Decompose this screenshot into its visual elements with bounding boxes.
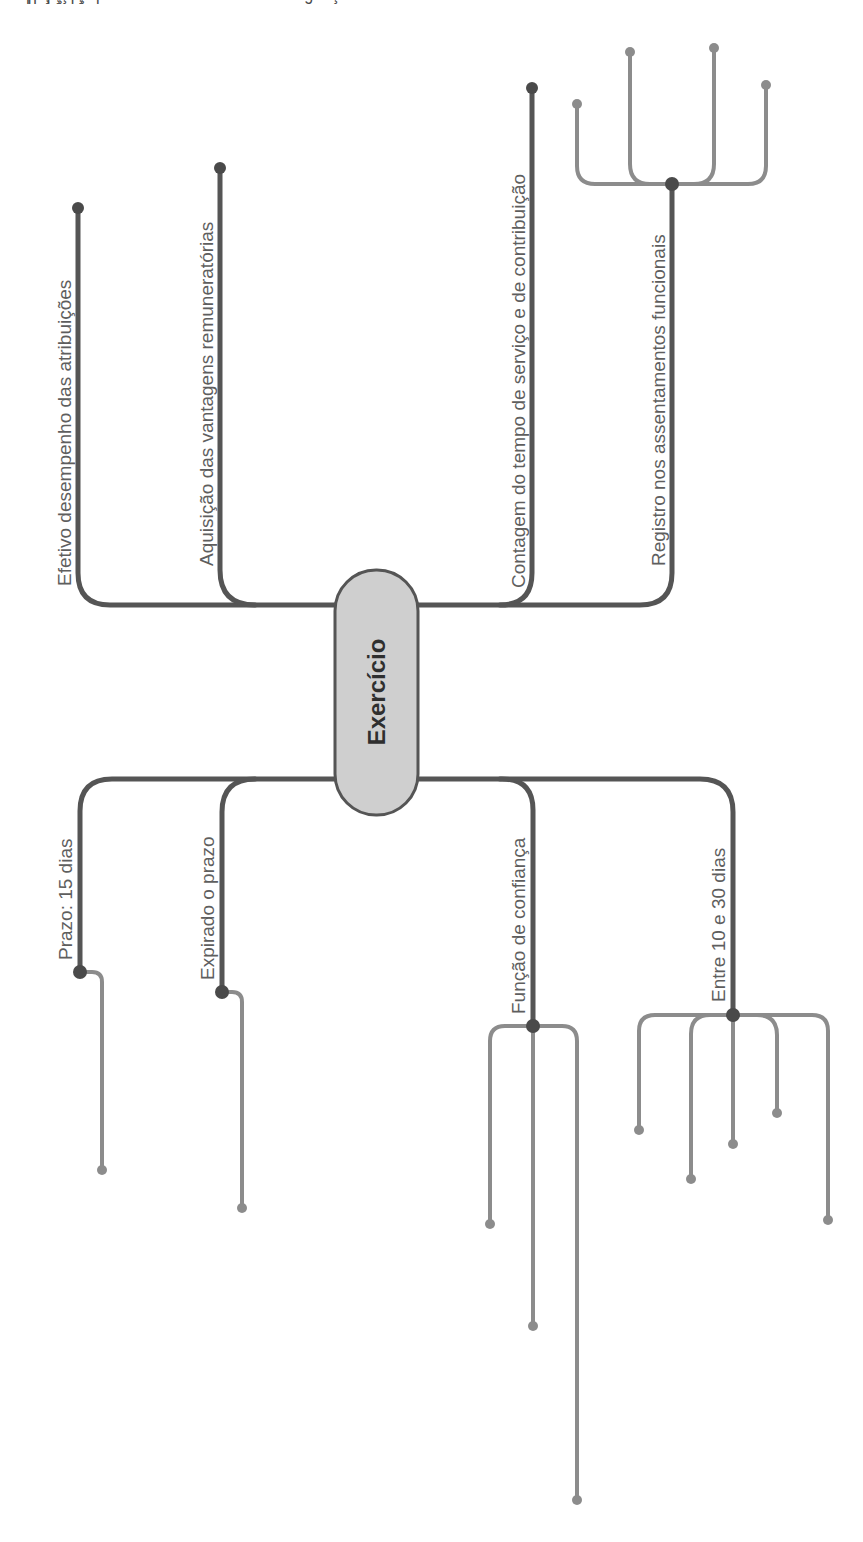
leaf-label-exercicio-provisorio: Exercício provisório	[0, 0, 141, 4]
endpoint-dot	[528, 1321, 538, 1331]
endpoint-dot	[485, 1219, 495, 1229]
endpoint-dot	[572, 1495, 582, 1505]
junction-dot	[665, 177, 679, 191]
branch-label-prazo: Prazo: 15 dias	[55, 839, 76, 960]
branch-line-aquisicao	[220, 168, 255, 605]
branch-label-expirado: Expirado o prazo	[197, 836, 218, 980]
junction-dot	[526, 1019, 540, 1033]
branch-label-efetivo: Efetivo desempenho das atribuições	[54, 280, 75, 586]
sub-line-remocao	[639, 1015, 733, 1130]
endpoint-dot	[526, 82, 538, 94]
sub-line-interrupcao	[694, 48, 714, 184]
sub-line-exercicio-provisorio	[733, 1015, 828, 1220]
endpoint-dot	[214, 162, 226, 174]
endpoint-dot	[686, 1174, 696, 1184]
sub-line-inicio	[577, 104, 672, 184]
sub-line-contados	[80, 972, 102, 1170]
center-label: Exercício	[363, 639, 390, 746]
sub-line-reinicio	[672, 85, 766, 184]
endpoint-dot	[709, 43, 719, 53]
branch-label-funcao: Função de confiança	[508, 837, 529, 1014]
endpoint-dot	[823, 1215, 833, 1225]
branch-label-contagem: Contagem do tempo de serviço e de contri…	[508, 174, 529, 588]
sub-line-cessao	[757, 1015, 777, 1113]
branch-line-expirado	[222, 779, 255, 992]
junction-dot	[215, 985, 229, 999]
junction-dot	[726, 1008, 740, 1022]
sub-line-exoneracao	[222, 992, 242, 1208]
mind-map: Exercício Efetivo desempenho das atribui…	[0, 0, 863, 1542]
endpoint-dot	[237, 1203, 247, 1213]
sub-line-sob-pena	[533, 1026, 577, 1500]
endpoint-dot	[634, 1125, 644, 1135]
endpoint-dot	[772, 1108, 782, 1118]
branch-label-entre: Entre 10 e 30 dias	[708, 848, 729, 1002]
branch-label-registro: Registro nos assentamentos funcionais	[648, 234, 669, 566]
endpoint-dot	[728, 1139, 738, 1149]
endpoint-dot	[72, 202, 84, 214]
branch-label-aquisicao: Aquisição das vantagens remuneratórias	[196, 222, 217, 566]
endpoint-dot	[761, 80, 771, 90]
endpoint-dot	[97, 1165, 107, 1175]
endpoint-dot	[625, 47, 635, 57]
endpoint-dot	[572, 99, 582, 109]
junction-dot	[73, 965, 87, 979]
sub-line-suspensao	[630, 52, 650, 184]
sub-line-exercicio-imediato	[490, 1026, 533, 1224]
sub-line-redistribuicao	[691, 1015, 710, 1179]
